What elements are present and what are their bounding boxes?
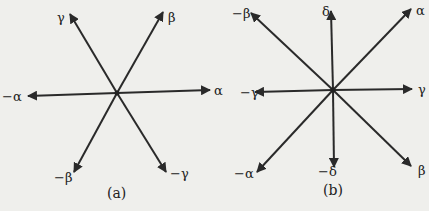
origin-point [331,88,336,93]
root-vector-arrow [333,90,411,166]
root-label: α [214,83,223,98]
root-label: −γ [170,166,189,181]
origin-point [115,91,120,96]
caption-a: (a) [107,185,126,201]
root-label: −δ [318,164,337,179]
diagram-a: α−αβ−βγ−γ [2,10,223,185]
root-label: −α [2,89,22,104]
root-label: −γ [240,85,259,100]
root-label: −β [232,6,250,21]
root-label: β [168,10,176,25]
root-vector-arrow [251,13,333,90]
root-label: γ [57,10,65,25]
root-systems-figure: α−αβ−βγ−γ α−αβ−βγ−γδ−δ (a) (b) [0,0,429,211]
root-vector-arrow [333,9,411,90]
root-label: δ [322,4,330,19]
root-label: α [416,3,425,18]
root-label: γ [418,82,426,97]
root-label: −β [54,170,72,185]
root-vector-arrow [70,14,117,93]
root-label: −α [234,166,254,181]
root-vector-arrow [74,93,117,172]
root-vector-arrow [117,93,166,172]
root-vector-arrow [28,93,117,96]
root-vector-arrow [331,11,333,90]
diagram-b: α−αβ−βγ−γδ−δ [232,3,426,181]
root-label: β [418,163,426,178]
root-vector-arrow [117,12,163,93]
root-vector-arrow [333,90,334,167]
root-vector-arrow [117,90,210,93]
caption-b: (b) [323,182,343,198]
root-vector-arrow [255,90,333,92]
root-vector-arrow [333,89,412,90]
root-vector-arrow [257,90,333,172]
